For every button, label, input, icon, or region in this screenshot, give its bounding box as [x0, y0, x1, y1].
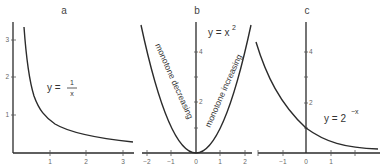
panel-a: a 1 2 3 1 2 3 y = 1 x [5, 5, 134, 165]
panel-c-title: c [305, 5, 310, 16]
panel-a-ytick: 1 [5, 111, 9, 118]
panel-c-eq-exp: −x [351, 108, 359, 115]
panel-a-eq-den: x [70, 90, 74, 97]
panel-b-xtick: −1 [167, 158, 175, 165]
panel-a-ytick: 3 [5, 36, 9, 43]
panel-a-title: a [61, 5, 67, 16]
panel-b-xtick: −2 [143, 158, 151, 165]
panel-a-xtick: 3 [121, 158, 125, 165]
panel-c-ytick: 2 [309, 99, 313, 106]
panel-a-xtick: 1 [48, 158, 52, 165]
panel-b-ytick: 2 [199, 98, 203, 105]
panel-b-eq-exp: 2 [232, 24, 236, 31]
panel-a-xtick: 2 [84, 158, 88, 165]
panel-c-xtick: 0 [304, 158, 308, 165]
panel-b-xtick: 0 [194, 158, 198, 165]
panel-a-ytick: 2 [5, 73, 9, 80]
panel-c-curve [256, 42, 378, 149]
panel-c-xtick: −1 [279, 158, 287, 165]
panel-c: c −1 0 1 2 4 y = 2 −x [256, 5, 380, 165]
panel-b: b −2 −1 0 1 2 2 4 monotone decreasing mo… [141, 5, 252, 165]
figure: a 1 2 3 1 2 3 y = 1 x b −2 −1 0 [0, 0, 382, 168]
panel-b-title: b [194, 5, 200, 16]
panel-c-eq-base: y = 2 [324, 113, 346, 124]
panel-c-xtick: 1 [329, 158, 333, 165]
panel-b-eq-base: y = x [208, 27, 229, 38]
panel-a-eq-num: 1 [70, 79, 74, 86]
panel-b-ytick: 4 [199, 48, 203, 55]
panel-b-annot-increasing: monotone increasing [203, 52, 244, 128]
panel-b-xtick: 1 [218, 158, 222, 165]
panel-a-curve [24, 27, 133, 142]
panel-a-eq-lhs: y = [47, 82, 61, 93]
panel-b-annot-decreasing: monotone decreasing [153, 42, 195, 121]
panel-b-xtick: 2 [243, 158, 247, 165]
panel-c-ytick: 4 [309, 48, 313, 55]
